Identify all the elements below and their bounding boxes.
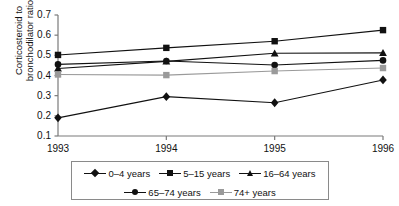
data-point-diamond [163, 92, 171, 101]
y-tick-label: 0.4 [25, 71, 51, 81]
data-point-square [380, 27, 386, 33]
data-point-square [380, 65, 386, 71]
data-point-diamond [271, 98, 279, 107]
legend-label: 65–74 years [148, 187, 200, 198]
data-point-square [271, 38, 277, 44]
data-point-circle [55, 61, 62, 68]
data-point-square [271, 68, 277, 74]
series-diamond [54, 76, 387, 123]
data-point-circle [380, 57, 387, 64]
series-square [55, 65, 386, 78]
y-tick-label: 0.3 [25, 91, 51, 101]
legend-item: 16–64 years [239, 168, 315, 179]
legend-row-secondary: 65–74 years74+ years [72, 183, 328, 202]
data-point-square [55, 52, 61, 58]
legend-item: 0–4 years [84, 168, 150, 179]
data-point-diamond [54, 113, 62, 122]
triangle-marker [239, 169, 261, 179]
y-tick-label: 0.7 [25, 10, 51, 20]
y-tick-label: 0.6 [25, 30, 51, 40]
series-lines [54, 27, 387, 122]
x-tick-label: 1996 [361, 144, 399, 154]
legend-label: 16–64 years [263, 168, 315, 179]
circle-marker [124, 188, 146, 198]
square-marker [159, 169, 181, 179]
x-tick-label: 1994 [144, 144, 188, 154]
data-point-diamond [379, 76, 387, 85]
x-tick-label: 1993 [36, 144, 80, 154]
legend-item: 65–74 years [124, 187, 200, 198]
axis-lines [55, 15, 384, 140]
data-point-square [163, 72, 169, 78]
legend-row-primary: 0–4 years5–15 years16–64 years [72, 162, 328, 183]
legend-label: 0–4 years [108, 168, 150, 179]
diamond-marker [84, 169, 106, 179]
y-tick-label: 0.5 [25, 50, 51, 60]
series-circle [55, 57, 387, 68]
legend-item: 74+ years [210, 187, 276, 198]
x-tick-label: 1995 [253, 144, 297, 154]
legend-item: 5–15 years [159, 168, 230, 179]
chart-figure: Corticosteroid to bronchodilator ratio 0… [0, 0, 399, 206]
y-tick-label: 0.2 [25, 111, 51, 121]
gray-square-marker [210, 188, 232, 198]
legend-label: 74+ years [234, 187, 276, 198]
y-tick-label: 0.1 [25, 131, 51, 141]
data-point-circle [271, 62, 278, 69]
data-point-circle [163, 58, 170, 65]
legend-label: 5–15 years [183, 168, 230, 179]
chart-legend: 0–4 years5–15 years16–64 years 65–74 yea… [71, 161, 329, 200]
data-point-square [55, 71, 61, 77]
data-point-square [163, 45, 169, 51]
